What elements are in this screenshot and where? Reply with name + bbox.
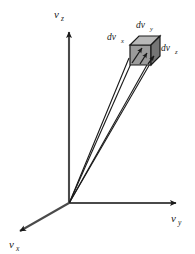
axis-label-vz-sub: z [60,14,64,23]
axis-label-vx-sub: x [15,244,20,253]
cube-label-dvy-sub: y [149,25,153,32]
cube-label-dvy-main: dv [136,20,146,30]
axis-label-vy-main: v [171,212,176,224]
axis-vx [20,203,69,231]
volume-element-cube [130,36,160,65]
ray-line-4 [70,50,159,203]
cube-label-dvz-sub: z [174,48,178,55]
axis-label-vy: v y [171,212,182,227]
axis-label-vz-main: v [54,8,59,20]
axis-label-vz: v z [54,8,64,23]
ray-line-2 [70,50,138,203]
cube-label-dvx-main: dv [107,32,117,42]
axis-label-vy-sub: y [177,218,182,227]
axis-label-vx: v x [9,238,20,253]
cube-label-dvz: dv z [161,43,178,55]
ray-line-1 [70,58,130,203]
cube-label-dvx: dv x [107,32,124,44]
ray-lines-group [70,50,159,203]
cube-label-dvx-sub: x [120,37,124,44]
cube-label-dvy: dv y [136,20,153,32]
axis-label-vx-main: v [9,238,14,250]
cube-label-dvz-main: dv [161,43,171,53]
velocity-space-diagram: v z v y v x dv x dv y dv z [0,0,195,254]
axis-vx-line [20,203,69,231]
